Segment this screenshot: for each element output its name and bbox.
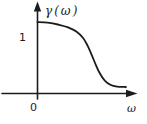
gamma-omega-figure: γ(ω) 1 0 ω (0, 0, 147, 124)
x-axis-title: ω (127, 102, 136, 115)
gamma-curve (38, 22, 126, 87)
y-tick-label-1: 1 (19, 31, 26, 44)
x-axis-arrowhead-icon (126, 90, 138, 97)
y-axis-arrowhead-icon (34, 2, 41, 12)
x-tick-label-0: 0 (30, 101, 37, 114)
y-axis-title: γ(ω) (45, 4, 79, 18)
plot-canvas: γ(ω) 1 0 ω (0, 0, 147, 124)
